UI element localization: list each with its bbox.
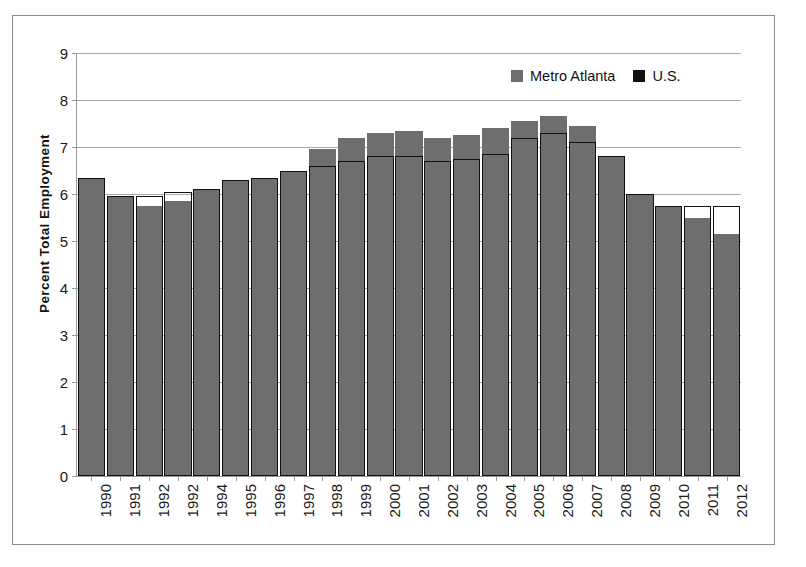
y-axis-tick-label: 9 bbox=[60, 45, 68, 62]
x-axis-tick-mark bbox=[698, 476, 699, 481]
x-axis-tick-mark bbox=[438, 476, 439, 481]
bar-us[interactable] bbox=[107, 196, 134, 476]
bar-us[interactable] bbox=[598, 156, 625, 476]
x-axis-tick-mark bbox=[380, 476, 381, 481]
bar-group[interactable] bbox=[655, 53, 682, 476]
bar-group[interactable] bbox=[222, 53, 249, 476]
x-axis-tick-label: 2012 bbox=[733, 484, 750, 517]
x-axis-tick-label: 2004 bbox=[502, 484, 519, 517]
x-axis-tick-mark bbox=[611, 476, 612, 481]
bar-us[interactable] bbox=[453, 159, 480, 476]
y-axis-tick-label: 0 bbox=[60, 468, 68, 485]
x-axis-tick-mark bbox=[178, 476, 179, 481]
bar-us[interactable] bbox=[78, 178, 105, 476]
x-axis-tick-label: 2009 bbox=[646, 484, 663, 517]
bar-group[interactable] bbox=[598, 53, 625, 476]
plot-area: 0123456789 19901991199219921994199519961… bbox=[76, 53, 741, 477]
bar-us[interactable] bbox=[655, 206, 682, 476]
bar-us[interactable] bbox=[713, 206, 740, 476]
x-axis-tick-mark bbox=[409, 476, 410, 481]
x-axis-tick-label: 1996 bbox=[271, 484, 288, 517]
x-axis-tick-mark bbox=[207, 476, 208, 481]
bar-us[interactable] bbox=[482, 154, 509, 476]
bar-group[interactable] bbox=[395, 53, 422, 476]
x-axis-tick-mark bbox=[727, 476, 728, 481]
bar-group[interactable] bbox=[136, 53, 163, 476]
y-axis-tick-label: 5 bbox=[60, 233, 68, 250]
bar-us[interactable] bbox=[424, 161, 451, 476]
bar-group[interactable] bbox=[338, 53, 365, 476]
bar-group[interactable] bbox=[540, 53, 567, 476]
x-axis-tick-mark bbox=[496, 476, 497, 481]
bar-us[interactable] bbox=[222, 180, 249, 476]
bar-group[interactable] bbox=[78, 53, 105, 476]
x-axis-tick-label: 1990 bbox=[97, 484, 114, 517]
x-axis-tick-label: 1999 bbox=[357, 484, 374, 517]
x-axis-tick-mark bbox=[236, 476, 237, 481]
x-axis-tick-mark bbox=[120, 476, 121, 481]
bar-us[interactable] bbox=[309, 166, 336, 476]
bar-us[interactable] bbox=[338, 161, 365, 476]
x-axis-tick-label: 2002 bbox=[444, 484, 461, 517]
bar-us[interactable] bbox=[511, 138, 538, 476]
bar-group[interactable] bbox=[626, 53, 653, 476]
bar-group[interactable] bbox=[511, 53, 538, 476]
bar-us[interactable] bbox=[164, 192, 191, 476]
bar-us[interactable] bbox=[367, 156, 394, 476]
bar-us[interactable] bbox=[193, 189, 220, 476]
x-axis-tick-mark bbox=[553, 476, 554, 481]
x-axis-tick-label: 2010 bbox=[675, 484, 692, 517]
x-axis-tick-label: 1997 bbox=[300, 484, 317, 517]
bar-us[interactable] bbox=[569, 142, 596, 476]
y-axis-tick-label: 3 bbox=[60, 327, 68, 344]
x-axis-tick-mark bbox=[351, 476, 352, 481]
bar-group[interactable] bbox=[367, 53, 394, 476]
bar-group[interactable] bbox=[164, 53, 191, 476]
y-axis-tick-label: 7 bbox=[60, 139, 68, 156]
bar-group[interactable] bbox=[684, 53, 711, 476]
x-axis-tick-mark bbox=[322, 476, 323, 481]
bar-us[interactable] bbox=[684, 206, 711, 476]
y-axis-tick-label: 6 bbox=[60, 186, 68, 203]
y-axis-tick-label: 2 bbox=[60, 374, 68, 391]
x-axis-tick-label: 1992 bbox=[184, 484, 201, 517]
x-axis-tick-label: 2011 bbox=[704, 484, 721, 516]
x-axis-tick-mark bbox=[524, 476, 525, 481]
x-axis-tick-mark bbox=[669, 476, 670, 481]
bar-group[interactable] bbox=[424, 53, 451, 476]
x-axis-tick-label: 2001 bbox=[415, 484, 432, 517]
x-axis-tick-label: 2008 bbox=[617, 484, 634, 517]
bar-group[interactable] bbox=[280, 53, 307, 476]
chart-figure: Percent Total Employment Metro Atlanta U… bbox=[12, 15, 775, 545]
bar-group[interactable] bbox=[453, 53, 480, 476]
bar-group[interactable] bbox=[107, 53, 134, 476]
bar-us[interactable] bbox=[540, 133, 567, 476]
x-axis-tick-label: 2005 bbox=[530, 484, 547, 517]
bar-us[interactable] bbox=[395, 156, 422, 476]
x-axis-tick-label: 2000 bbox=[386, 484, 403, 517]
y-axis-tick-mark bbox=[72, 476, 77, 477]
bar-group[interactable] bbox=[251, 53, 278, 476]
bar-us[interactable] bbox=[136, 196, 163, 476]
bar-group[interactable] bbox=[309, 53, 336, 476]
bar-group[interactable] bbox=[193, 53, 220, 476]
x-axis-tick-mark bbox=[467, 476, 468, 481]
x-axis-tick-label: 1992 bbox=[155, 484, 172, 517]
x-axis-tick-label: 1998 bbox=[328, 484, 345, 517]
x-axis-tick-mark bbox=[265, 476, 266, 481]
bar-us[interactable] bbox=[280, 171, 307, 477]
bars-layer bbox=[77, 53, 741, 476]
y-axis-tick-label: 1 bbox=[60, 421, 68, 438]
x-axis-tick-mark bbox=[149, 476, 150, 481]
x-axis-tick-mark bbox=[640, 476, 641, 481]
x-axis-tick-mark bbox=[294, 476, 295, 481]
bar-group[interactable] bbox=[713, 53, 740, 476]
y-axis-tick-label: 4 bbox=[60, 280, 68, 297]
x-axis-tick-mark bbox=[91, 476, 92, 481]
bar-us[interactable] bbox=[251, 178, 278, 476]
y-axis-tick-label: 8 bbox=[60, 92, 68, 109]
bar-group[interactable] bbox=[569, 53, 596, 476]
x-axis-tick-label: 1991 bbox=[126, 484, 143, 517]
bar-group[interactable] bbox=[482, 53, 509, 476]
bar-us[interactable] bbox=[626, 194, 653, 476]
